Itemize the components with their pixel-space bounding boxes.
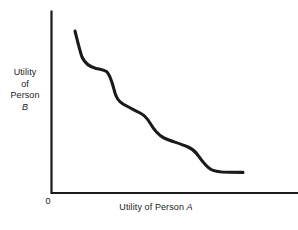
- y-axis-label-line-3: Person: [2, 90, 48, 102]
- y-axis-label: Utility of Person B: [2, 67, 48, 113]
- origin-label: 0: [41, 196, 55, 208]
- y-axis-label-line-1: Utility: [2, 67, 48, 79]
- y-axis-label-line-2: of: [2, 79, 48, 91]
- y-axis-label-variable: B: [2, 102, 48, 114]
- axes-frame: [52, 12, 298, 194]
- x-axis-label-variable: A: [187, 202, 193, 212]
- frontier-curve: [75, 31, 243, 172]
- utility-possibility-frontier-figure: Utility of Person B Utility of Person A …: [0, 0, 298, 230]
- x-axis-label-text: Utility of Person: [119, 202, 186, 212]
- x-axis-label: Utility of Person A: [56, 202, 256, 214]
